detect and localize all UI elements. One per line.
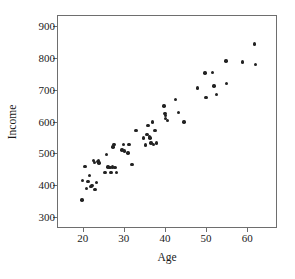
data-point xyxy=(153,129,156,132)
data-point xyxy=(254,63,257,66)
data-point xyxy=(93,188,96,191)
x-axis-title: Age xyxy=(57,252,277,264)
data-point xyxy=(97,161,100,164)
data-point xyxy=(142,136,145,139)
x-tick-label: 50 xyxy=(201,233,212,244)
x-tick-label: 30 xyxy=(118,233,129,244)
plot-area: 300400500600700800900 2030405060 xyxy=(57,15,277,228)
data-point xyxy=(83,165,86,168)
x-tick-label: 20 xyxy=(77,233,88,244)
data-point xyxy=(95,181,98,184)
y-tick-label: 500 xyxy=(39,148,56,159)
data-point xyxy=(122,143,125,146)
data-point xyxy=(182,120,185,123)
data-point xyxy=(203,71,206,74)
y-tick-label: 900 xyxy=(39,20,56,31)
data-point xyxy=(113,166,116,169)
x-tick-label: 60 xyxy=(242,233,253,244)
data-point xyxy=(103,171,106,174)
data-point xyxy=(177,111,180,114)
data-point xyxy=(90,184,93,187)
y-tick-label: 300 xyxy=(39,212,56,223)
data-point xyxy=(144,143,147,146)
data-point xyxy=(212,84,215,87)
data-point xyxy=(215,93,218,96)
data-point xyxy=(196,86,199,89)
data-point xyxy=(224,59,227,62)
data-point xyxy=(204,96,207,99)
data-point xyxy=(146,124,149,127)
data-point xyxy=(211,71,214,74)
data-point xyxy=(134,129,137,132)
y-tick-label: 600 xyxy=(39,116,56,127)
y-tick-label: 400 xyxy=(39,180,56,191)
data-points-layer xyxy=(58,16,276,227)
x-axis-title-text: Age xyxy=(157,251,176,263)
x-tick-label: 40 xyxy=(159,233,170,244)
data-point xyxy=(225,82,228,85)
y-tick-label: 800 xyxy=(39,52,56,63)
data-point xyxy=(241,60,244,63)
data-point xyxy=(174,98,177,101)
data-point xyxy=(115,171,118,174)
data-point xyxy=(105,153,108,156)
data-point xyxy=(86,180,89,183)
scatter-plot-figure: Income 300400500600700800900 2030405060 … xyxy=(0,0,295,279)
data-point xyxy=(85,187,88,190)
data-point xyxy=(80,198,83,201)
data-point xyxy=(81,179,84,182)
data-point xyxy=(126,151,129,154)
data-point xyxy=(253,42,256,45)
data-point xyxy=(148,136,151,139)
data-point xyxy=(88,174,91,177)
y-axis-title-text: Income xyxy=(6,104,18,138)
y-axis-title: Income xyxy=(4,0,20,243)
y-tick-label: 700 xyxy=(39,84,56,95)
data-point xyxy=(162,104,165,107)
data-point xyxy=(166,119,169,122)
data-point xyxy=(109,171,112,174)
data-point xyxy=(151,120,154,123)
data-point xyxy=(155,141,158,144)
data-point xyxy=(130,163,133,166)
data-point xyxy=(112,143,115,146)
data-point xyxy=(127,143,130,146)
